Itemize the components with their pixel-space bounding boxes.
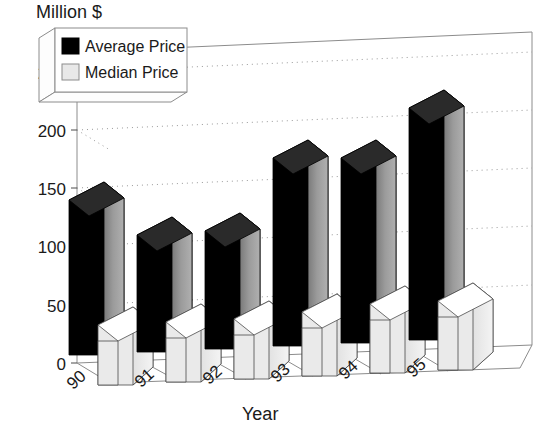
bar-chart-3d: 250 200 150 100 50 0 xyxy=(0,0,540,429)
y-tick-150: 150 xyxy=(38,180,66,199)
legend-label-average-price: Average Price xyxy=(85,38,185,55)
x-axis-title: Year xyxy=(242,404,278,424)
legend-swatch-median-price xyxy=(62,64,79,80)
legend-label-median-price: Median Price xyxy=(85,64,178,81)
legend[interactable]: Average Price Median Price xyxy=(39,28,187,102)
y-tick-100: 100 xyxy=(38,238,66,257)
y-tick-0: 0 xyxy=(57,355,66,374)
y-axis-labels: 250 200 150 100 50 0 xyxy=(38,64,66,374)
legend-swatch-average-price xyxy=(62,38,79,54)
y-axis-title: Million $ xyxy=(36,2,102,22)
chart-container: 250 200 150 100 50 0 xyxy=(0,0,540,429)
legend-item-median-price[interactable]: Median Price xyxy=(62,64,178,81)
x-tick-90: 90 xyxy=(63,367,90,394)
y-tick-50: 50 xyxy=(47,297,66,316)
y-tick-200: 200 xyxy=(38,122,66,141)
